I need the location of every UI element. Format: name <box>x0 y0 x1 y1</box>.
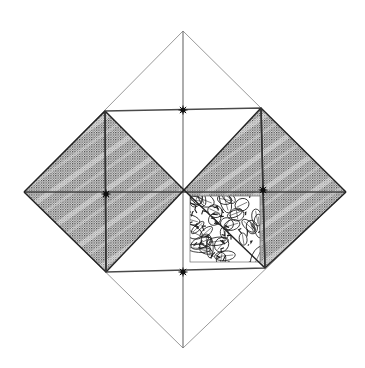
geometric-diagram <box>0 0 365 368</box>
left-star-icon <box>102 190 111 199</box>
top-star-icon <box>179 106 188 115</box>
right-star-icon <box>259 186 268 195</box>
diagram-canvas <box>0 0 365 368</box>
bottom-star-icon <box>179 268 188 277</box>
